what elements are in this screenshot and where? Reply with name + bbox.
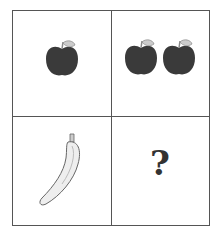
question-mark: ?	[140, 143, 180, 183]
apple-icon	[44, 39, 80, 79]
cell-top-left	[12, 10, 111, 116]
banana-icon	[38, 130, 86, 210]
cell-top-right	[111, 10, 210, 116]
apple-icon	[123, 38, 159, 78]
cell-bottom-left	[12, 116, 111, 226]
apple-icon	[161, 38, 197, 78]
